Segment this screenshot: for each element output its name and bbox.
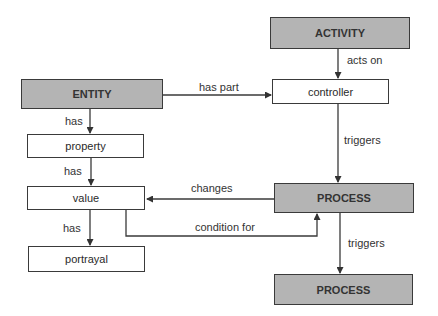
- node-portrayal-label: portrayal: [65, 253, 108, 265]
- label-has-part: has part: [199, 81, 239, 93]
- node-process-1[interactable]: PROCESS: [274, 183, 414, 213]
- node-value[interactable]: value: [27, 186, 145, 210]
- node-value-label: value: [73, 192, 99, 204]
- label-has-value: has: [64, 165, 82, 177]
- label-has-portrayal: has: [63, 222, 81, 234]
- node-process-2[interactable]: PROCESS: [274, 274, 413, 305]
- node-controller-label: controller: [308, 86, 353, 98]
- node-entity-label: ENTITY: [72, 88, 111, 100]
- node-process-1-label: PROCESS: [317, 192, 371, 204]
- node-activity-label: ACTIVITY: [315, 27, 365, 39]
- label-triggers-1: triggers: [344, 134, 381, 146]
- node-entity[interactable]: ENTITY: [21, 79, 163, 109]
- node-process-2-label: PROCESS: [317, 284, 371, 296]
- node-portrayal[interactable]: portrayal: [28, 246, 145, 272]
- label-changes: changes: [191, 182, 233, 194]
- label-triggers-2: triggers: [348, 237, 385, 249]
- node-property-label: property: [65, 140, 105, 152]
- label-has-property: has: [65, 115, 83, 127]
- node-controller[interactable]: controller: [272, 79, 389, 104]
- node-property[interactable]: property: [27, 134, 144, 158]
- label-condition-for: condition for: [195, 221, 255, 233]
- label-acts-on: acts on: [347, 54, 382, 66]
- node-activity[interactable]: ACTIVITY: [270, 17, 410, 49]
